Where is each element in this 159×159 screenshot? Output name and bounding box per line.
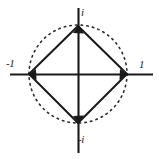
axis-label-one: 1: [139, 59, 144, 70]
axis-label-negative-one: -1: [6, 58, 15, 69]
axis-label-negative-i: -i: [78, 134, 84, 145]
complex-plane-figure: i -i -1 1: [0, 0, 159, 159]
axis-label-i: i: [81, 7, 84, 18]
